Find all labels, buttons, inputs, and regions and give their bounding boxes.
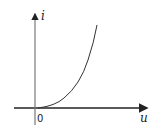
iu-diagram: i u 0 [0, 0, 159, 135]
y-axis-label: i [41, 9, 45, 23]
iu-curve [38, 25, 97, 108]
origin-label: 0 [37, 113, 43, 124]
x-axis-label: u [140, 111, 148, 125]
